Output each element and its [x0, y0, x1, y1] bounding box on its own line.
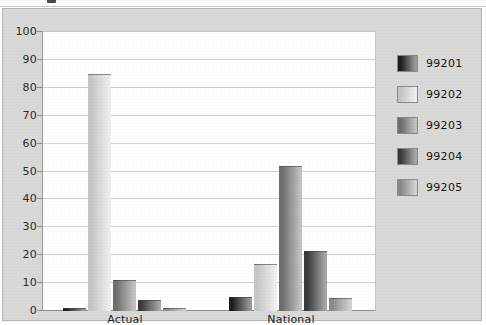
chart-page: 0102030405060708090100 ActualNational 99…	[0, 0, 486, 325]
y-axis-tick-label: 50	[11, 166, 37, 177]
legend-item-99203[interactable]: 99203	[397, 117, 479, 144]
y-axis-labels: 0102030405060708090100	[3, 31, 37, 311]
page-top-edge	[0, 0, 486, 7]
legend-label-99204: 99204	[426, 150, 463, 163]
cropped-header-mark-icon	[47, 0, 56, 3]
y-axis-tick-label: 90	[11, 54, 37, 65]
chart-panel: 0102030405060708090100 ActualNational 99…	[2, 8, 482, 321]
y-axis-tick-label: 30	[11, 221, 37, 232]
bar-actual-99204	[138, 300, 161, 311]
y-axis-tick-label: 40	[11, 193, 37, 204]
x-axis-label-national: National	[208, 313, 374, 325]
gridline-100	[43, 31, 375, 32]
bar-actual-99201	[63, 308, 86, 311]
header-divider	[0, 6, 486, 7]
swatch-99204-icon	[397, 148, 418, 165]
gridline-90	[43, 59, 375, 60]
y-axis-tick-label: 0	[11, 305, 37, 316]
y-axis-tick-label: 70	[11, 110, 37, 121]
bar-actual-99205	[163, 308, 186, 311]
chart-legend: 9920199202992039920499205	[397, 55, 479, 210]
plot-area	[42, 31, 376, 311]
bar-actual-99202	[88, 74, 111, 311]
swatch-99201-icon	[397, 55, 418, 72]
y-axis-tick-label: 60	[11, 138, 37, 149]
y-axis-tick-label: 100	[11, 26, 37, 37]
legend-label-99202: 99202	[426, 88, 463, 101]
x-axis-label-actual: Actual	[42, 313, 208, 325]
swatch-99205-icon	[397, 179, 418, 196]
bar-actual-99203	[113, 280, 136, 311]
bar-national-99202	[254, 264, 277, 311]
y-axis-tick-label: 10	[11, 277, 37, 288]
legend-item-99204[interactable]: 99204	[397, 148, 479, 175]
legend-item-99202[interactable]: 99202	[397, 86, 479, 113]
legend-label-99203: 99203	[426, 119, 463, 132]
bar-national-99201	[229, 297, 252, 311]
bar-national-99204	[304, 251, 327, 311]
legend-label-99201: 99201	[426, 57, 463, 70]
swatch-99203-icon	[397, 117, 418, 134]
y-axis-tick-label: 80	[11, 82, 37, 93]
y-axis-tick-label: 20	[11, 249, 37, 260]
bar-national-99205	[329, 298, 352, 311]
swatch-99202-icon	[397, 86, 418, 103]
legend-item-99205[interactable]: 99205	[397, 179, 479, 206]
legend-label-99205: 99205	[426, 181, 463, 194]
bar-national-99203	[279, 166, 302, 311]
legend-item-99201[interactable]: 99201	[397, 55, 479, 82]
